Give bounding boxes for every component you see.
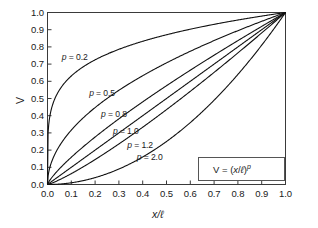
y-tick-label: 0.8 [22, 41, 44, 52]
curve-annotation-0-2: p = 0.2 [62, 52, 88, 62]
equation-label: V = (x/ℓ)p [213, 163, 251, 175]
y-tick-label: 0.3 [22, 127, 44, 138]
x-tick-label: 0.9 [252, 188, 272, 199]
y-axis-label: V [14, 97, 26, 104]
x-tick-label: 0.4 [133, 188, 153, 199]
y-tick-label: 0.9 [22, 24, 44, 35]
y-tick-label: 0.7 [22, 58, 44, 69]
y-tick-label: 0.6 [22, 75, 44, 86]
x-tick-label: 0.2 [85, 188, 105, 199]
curve-annotation-1-2: p = 1.2 [127, 140, 153, 150]
x-tick-label: 0.3 [109, 188, 129, 199]
y-tick-label: 0.0 [22, 179, 44, 190]
x-tick-label: 0.0 [38, 188, 58, 199]
x-tick-label: 0.1 [61, 188, 81, 199]
x-tick-label: 0.8 [228, 188, 248, 199]
x-axis-label: x/ℓ [152, 208, 164, 220]
curve-annotation-0-5: p = 0.5 [89, 88, 115, 98]
curve-annotation-0-8: p = 0.8 [101, 109, 127, 119]
x-tick-label: 0.7 [204, 188, 224, 199]
chart-figure: 0.00.10.20.30.40.50.60.70.80.91.0 0.00.1… [0, 0, 318, 228]
curve-annotation-1-0: p = 1.0 [113, 126, 139, 136]
x-tick-label: 1.0 [276, 188, 296, 199]
y-tick-label: 1.0 [22, 7, 44, 18]
x-tick-label: 0.6 [180, 188, 200, 199]
y-tick-label: 0.2 [22, 144, 44, 155]
y-tick-label: 0.1 [22, 161, 44, 172]
y-tick-label: 0.4 [22, 110, 44, 121]
curve-annotation-2-0: p = 2.0 [137, 152, 163, 162]
x-tick-label: 0.5 [157, 188, 177, 199]
